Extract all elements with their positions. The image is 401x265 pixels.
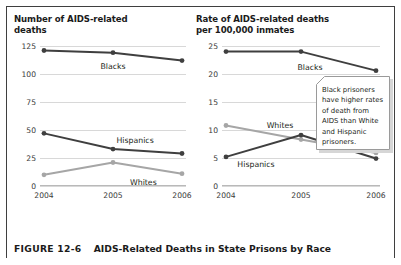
y-axis-tick-label: 0: [213, 182, 218, 191]
figure-number: FIGURE 12-6: [14, 243, 82, 254]
y-axis-tick-label: 75: [26, 98, 36, 107]
y-axis-tick-label: 25: [26, 154, 36, 163]
y-axis-tick-label: 50: [26, 126, 36, 135]
y-axis-tick-label: 5: [213, 154, 218, 163]
figure-page: Number of AIDS-related deaths 0255075100…: [0, 0, 401, 265]
data-point-blacks: [299, 50, 304, 55]
chart-title-right-line1: Rate of AIDS-related deaths: [196, 14, 386, 25]
chart-title-right: Rate of AIDS-related deaths per 100,000 …: [196, 14, 386, 36]
chart-title-left-line1: Number of AIDS-related: [14, 14, 192, 25]
y-axis-tick-label: 10: [208, 126, 218, 135]
chart-title-right-line2: per 100,000 inmates: [196, 25, 386, 36]
figure-caption: FIGURE 12-6 AIDS-Related Deaths in State…: [14, 243, 394, 254]
x-axis-tick-label: 2004: [34, 191, 53, 200]
callout-text: Black prisoners have higher rates of dea…: [316, 76, 390, 150]
data-point-hispanics: [180, 152, 185, 157]
data-point-whites: [224, 124, 229, 129]
y-axis-tick-label: 25: [208, 42, 218, 51]
y-axis-tick-label: 100: [22, 70, 37, 79]
plot-area-left: 0255075100125200420052006BlacksHispanics…: [14, 40, 192, 205]
series-label-whites: Whites: [130, 177, 157, 186]
series-label-hispanics: Hispanics: [237, 159, 274, 168]
frame-border-top: [6, 6, 395, 7]
data-point-hispanics: [299, 133, 304, 138]
x-axis-tick-label: 2006: [366, 191, 385, 200]
data-point-whites: [180, 172, 185, 177]
series-label-hispanics: Hispanics: [116, 135, 153, 144]
data-point-blacks: [374, 69, 379, 74]
frame-border-left: [6, 6, 7, 258]
data-point-blacks: [180, 59, 185, 64]
chart-title-left-line2: deaths: [14, 25, 192, 36]
y-axis-tick-label: 20: [208, 70, 218, 79]
data-point-whites: [299, 138, 304, 143]
data-point-whites: [42, 173, 47, 178]
data-point-whites: [111, 160, 116, 165]
data-point-blacks: [224, 50, 229, 55]
figure-caption-text: AIDS-Related Deaths in State Prisons by …: [94, 243, 331, 254]
chart-title-left: Number of AIDS-related deaths: [14, 14, 192, 36]
y-axis-tick-label: 125: [22, 42, 37, 51]
data-point-hispanics: [42, 131, 47, 136]
callout-box: Black prisoners have higher rates of dea…: [316, 76, 390, 150]
series-label-whites: Whites: [267, 121, 294, 130]
data-point-blacks: [111, 51, 116, 56]
gridline: [222, 186, 380, 187]
y-axis-tick-label: 15: [208, 98, 218, 107]
x-axis-tick-label: 2005: [103, 191, 122, 200]
gridline: [40, 186, 186, 187]
chart-panel-number-of-deaths: Number of AIDS-related deaths 0255075100…: [14, 14, 192, 205]
data-point-hispanics: [224, 155, 229, 160]
data-point-blacks: [42, 48, 47, 53]
y-axis-tick-label: 0: [31, 182, 36, 191]
series-label-blacks: Blacks: [100, 62, 125, 71]
data-point-hispanics: [374, 157, 379, 162]
plot-inner-left: 0255075100125200420052006BlacksHispanics…: [40, 46, 186, 186]
x-axis-tick-label: 2005: [291, 191, 310, 200]
x-axis-tick-label: 2006: [172, 191, 191, 200]
x-axis-tick-label: 2004: [216, 191, 235, 200]
data-point-hispanics: [111, 147, 116, 152]
frame-border-right: [394, 6, 395, 258]
series-label-blacks: Blacks: [297, 63, 322, 72]
